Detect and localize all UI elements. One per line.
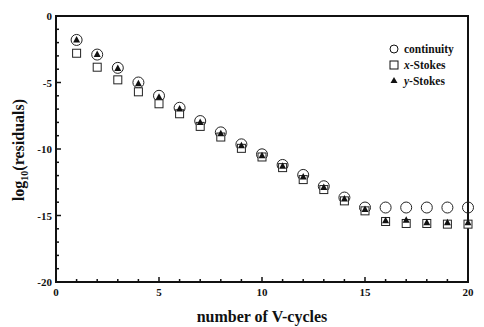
triangle-marker bbox=[94, 51, 101, 58]
square-marker bbox=[155, 100, 163, 108]
y-tick-label: -10 bbox=[37, 143, 52, 155]
y-axis-title: log10(residuals) bbox=[10, 99, 30, 201]
open-circle-icon bbox=[390, 45, 398, 53]
residuals-chart: 05101520 0-5-10-15-20 number of V-cycles… bbox=[0, 0, 484, 327]
circle-marker bbox=[421, 202, 432, 213]
y-tick-label: -5 bbox=[43, 77, 53, 89]
legend-item-continuity: continuity bbox=[390, 43, 454, 56]
triangle-marker bbox=[135, 80, 142, 87]
square-marker bbox=[73, 49, 81, 57]
triangle-marker bbox=[114, 65, 121, 72]
triangle-marker bbox=[197, 118, 204, 125]
circle-marker bbox=[401, 202, 412, 213]
x-tick-label: 20 bbox=[463, 286, 475, 298]
legend-item-x-stokes: x-Stokes bbox=[390, 59, 446, 71]
x-tick-label: 0 bbox=[53, 286, 59, 298]
y-tick-label: -15 bbox=[37, 210, 52, 222]
y-axis-title-rest: (residuals) bbox=[10, 99, 28, 171]
filled-triangle-icon bbox=[391, 77, 398, 83]
legend-item-y-stokes: y-Stokes bbox=[391, 75, 446, 88]
x-tick-label: 5 bbox=[156, 286, 162, 298]
legend-label: continuity bbox=[404, 43, 454, 56]
triangle-marker bbox=[176, 105, 183, 112]
y-tick-label: 0 bbox=[47, 10, 53, 22]
open-square-icon bbox=[390, 61, 398, 69]
square-marker bbox=[134, 88, 142, 96]
triangle-marker bbox=[73, 36, 80, 43]
circle-marker bbox=[442, 202, 453, 213]
y-axis-ticks: 0-5-10-15-20 bbox=[37, 10, 61, 288]
x-tick-label: 15 bbox=[360, 286, 372, 298]
square-marker bbox=[93, 63, 101, 71]
square-marker bbox=[114, 76, 122, 84]
legend-label: x-Stokes bbox=[403, 59, 446, 71]
legend-label: y-Stokes bbox=[402, 75, 445, 88]
circle-marker bbox=[380, 202, 391, 213]
triangle-marker bbox=[156, 93, 163, 100]
y-tick-label: -20 bbox=[37, 276, 52, 288]
y-axis-title-sub: 10 bbox=[19, 171, 30, 181]
x-axis-ticks: 05101520 bbox=[53, 277, 474, 298]
legend: continuity x-Stokes y-Stokes bbox=[390, 43, 454, 88]
x-axis-title: number of V-cycles bbox=[197, 308, 328, 326]
x-tick-label: 10 bbox=[257, 286, 269, 298]
y-axis-title-main: log bbox=[10, 181, 28, 201]
